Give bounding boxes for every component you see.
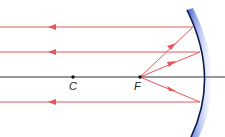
arrow-icon [167,86,176,91]
arrow-left-icon [48,24,56,30]
ray-diagram [0,0,225,137]
arrow-icon [167,43,176,50]
arrow-icon [167,61,176,67]
label-c: C [69,81,77,92]
center-of-curvature-point [71,75,74,78]
focal-point [138,75,141,78]
arrow-left-icon [48,99,56,105]
label-f: F [134,81,141,92]
arrow-left-icon [48,49,56,55]
